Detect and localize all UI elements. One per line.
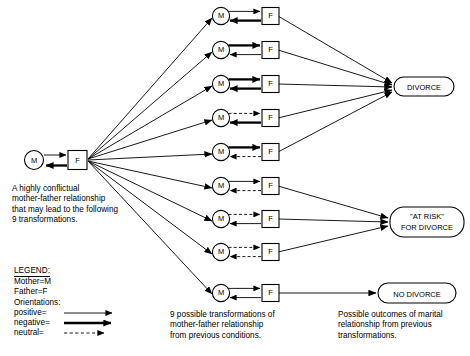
outcome-edge-5-divorce <box>278 92 392 152</box>
mother-label: M <box>218 214 224 223</box>
fanout-edge-4 <box>88 120 212 159</box>
mother-label: M <box>218 79 224 88</box>
source-father-label: F <box>75 156 80 165</box>
legend-negative-label: negative= <box>14 318 62 328</box>
outcome-at-risk-label-line1: "AT RISK" <box>410 212 444 221</box>
mother-label: M <box>218 147 224 156</box>
father-label: F <box>268 79 273 88</box>
father-label: F <box>268 181 273 190</box>
outcome-at-risk-label-line2: FOR DIVORCE <box>401 223 453 232</box>
legend-positive-row: positive= <box>14 308 159 318</box>
marital-transformation-diagram: M F <box>0 0 470 356</box>
father-label: F <box>268 247 273 256</box>
outcome-edge-2-divorce <box>278 50 392 85</box>
caption-middle: 9 possible transformations of mother-fat… <box>170 310 330 341</box>
mother-label: M <box>218 181 224 190</box>
father-label: F <box>268 288 273 297</box>
father-label: F <box>268 113 273 122</box>
transformation-rows: MFMFMFMFMFMFMFMFMF <box>212 7 279 301</box>
outcome-edges <box>278 16 392 293</box>
outcome-divorce-label: DIVORCE <box>407 83 441 92</box>
mother-label: M <box>218 247 224 256</box>
legend-title-row: LEGEND: <box>14 266 159 277</box>
transformation-row: MF <box>212 7 279 24</box>
transformation-row: MF <box>212 109 279 126</box>
mother-label: M <box>218 11 224 20</box>
transformation-row: MF <box>212 284 279 301</box>
legend-orientations-row: Orientations: <box>14 298 159 308</box>
source-relationship-group: M F <box>25 151 88 170</box>
outcome-edge-8-at-risk <box>278 226 388 252</box>
outcome-edge-6-at-risk <box>278 186 388 218</box>
mother-label: M <box>218 113 224 122</box>
caption-right: Possible outcomes of marital relationshi… <box>338 310 468 341</box>
legend-negative-row: negative= <box>14 318 159 328</box>
transformation-row: MF <box>212 210 279 227</box>
transformation-row: MF <box>212 243 279 260</box>
fanout-edge-2 <box>88 52 212 159</box>
fanout-edges <box>88 18 212 294</box>
transformation-row: MF <box>212 41 279 58</box>
father-label: F <box>268 45 273 54</box>
positive-arrow-icon <box>62 308 159 318</box>
outcome-no-divorce-label: NO DIVORCE <box>393 290 441 299</box>
legend-title: LEGEND: <box>14 266 50 277</box>
fanout-edge-5 <box>88 154 212 160</box>
mother-label: M <box>218 288 224 297</box>
legend-neutral-row: neutral= <box>14 328 159 338</box>
outcome-edge-7-at-risk <box>278 219 388 222</box>
outcome-edge-4-divorce <box>278 90 392 118</box>
legend: LEGEND: Mother=M Father=F Orientations: … <box>14 266 159 338</box>
transformation-row: MF <box>212 75 279 92</box>
legend-mother-row: Mother=M <box>14 277 159 287</box>
fanout-edge-3 <box>88 86 212 159</box>
neutral-arrow-icon <box>62 328 159 338</box>
legend-positive-label: positive= <box>14 308 62 318</box>
legend-neutral-label: neutral= <box>14 328 62 338</box>
negative-arrow-icon <box>62 318 159 328</box>
source-mother-label: M <box>31 156 37 165</box>
fanout-edge-1 <box>88 18 212 159</box>
father-label: F <box>268 11 273 20</box>
outcome-node-at-risk: "AT RISK" FOR DIVORCE <box>390 207 464 237</box>
outcome-nodes: DIVORCE "AT RISK" FOR DIVORCE NO DIVORCE <box>378 77 464 303</box>
outcome-node-divorce: DIVORCE <box>394 77 454 96</box>
caption-left: A highly conflictual mother-father relat… <box>12 184 162 226</box>
father-label: F <box>268 147 273 156</box>
transformation-row: MF <box>212 177 279 194</box>
father-label: F <box>268 214 273 223</box>
legend-father-row: Father=F <box>14 287 159 297</box>
outcome-edge-3-divorce <box>278 84 392 87</box>
outcome-edge-1-divorce <box>278 16 392 83</box>
mother-label: M <box>218 45 224 54</box>
transformation-row: MF <box>212 143 279 160</box>
outcome-node-no-divorce: NO DIVORCE <box>378 283 456 303</box>
